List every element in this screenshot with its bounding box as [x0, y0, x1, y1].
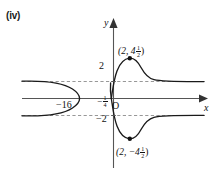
tick-label-x-negative-large: −16: [56, 100, 72, 110]
tick-label-y-negative: −2: [96, 114, 107, 124]
point-label-maximum: (2, 412): [118, 45, 144, 59]
tick-label-y-positive: 2: [99, 61, 104, 71]
point-label-maximum-text: (2, 412): [118, 45, 144, 59]
y-axis-arrowhead: [109, 18, 117, 28]
y-axis-label: y: [104, 18, 108, 28]
curve-upper-right: [111, 58, 204, 98]
point-max-close: ): [141, 47, 144, 57]
x-intercept-fraction: 14: [103, 95, 108, 109]
point-marker-minimum: [128, 137, 132, 141]
graph-canvas: [0, 0, 220, 171]
figure-container: (iv) y x O 2 −2 −16: [0, 0, 220, 171]
point-min-open: (2, −4: [116, 148, 140, 158]
point-min-close: ): [145, 148, 148, 158]
curve-origin-crossing: [110, 83, 111, 99]
x-axis-label: x: [204, 103, 208, 113]
origin-label: O: [112, 101, 119, 111]
point-label-minimum: (2, −412): [116, 146, 149, 160]
x-intercept-denominator: 4: [103, 101, 108, 108]
curve-lower-right: [111, 99, 204, 139]
tick-label-x-intercept: −14: [97, 95, 108, 109]
point-label-minimum-text: (2, −412): [116, 146, 149, 160]
x-intercept-minus-sign: −: [97, 97, 102, 106]
point-max-open: (2, 4: [118, 47, 135, 57]
